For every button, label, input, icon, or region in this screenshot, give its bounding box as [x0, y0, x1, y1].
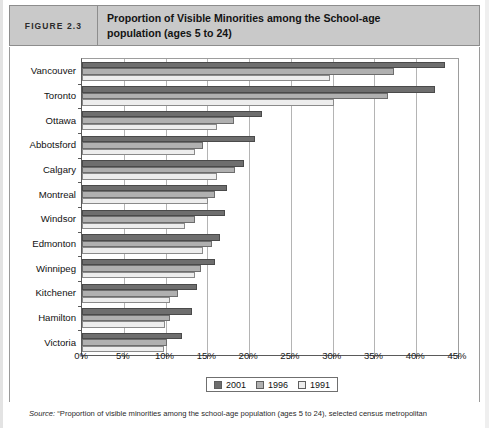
category-label: Calgary [43, 164, 76, 175]
source-prefix: Source: [29, 409, 55, 418]
page-right-edge [485, 0, 489, 428]
legend-swatch-1996 [256, 381, 264, 389]
x-axis-tick-label: 35% [364, 350, 383, 361]
legend-swatch-2001 [214, 381, 222, 389]
legend-item-2001: 2001 [214, 380, 246, 390]
gridline [374, 59, 375, 355]
bar-abbotsford-1991 [82, 149, 195, 155]
category-label: Windsor [41, 213, 76, 224]
bar-kitchener-1991 [82, 297, 170, 303]
chart-panel: VancouverTorontoOttawaAbbotsfordCalgaryM… [9, 47, 480, 402]
category-axis-labels: VancouverTorontoOttawaAbbotsfordCalgaryM… [10, 58, 76, 354]
x-axis-tick-label: 15% [197, 350, 216, 361]
category-label: Victoria [44, 336, 76, 347]
category-label: Montreal [39, 188, 76, 199]
category-label: Abbotsford [30, 139, 76, 150]
legend-label-1996: 1996 [268, 380, 288, 390]
y-axis-tick [78, 256, 82, 257]
legend-item-1996: 1996 [256, 380, 288, 390]
page-left-edge [0, 0, 3, 428]
x-axis-tick-label: 40% [406, 350, 425, 361]
legend-label-2001: 2001 [226, 380, 246, 390]
category-label: Toronto [44, 90, 76, 101]
gridline [416, 59, 417, 355]
y-axis-tick [78, 133, 82, 134]
figure-header: FIGURE 2.3 Proportion of Visible Minorit… [9, 5, 480, 46]
bar-edmonton-1991 [82, 247, 203, 253]
legend-item-1991: 1991 [298, 380, 330, 390]
source-note: Source: “Proportion of visible minoritie… [29, 409, 469, 419]
y-axis-tick [78, 306, 82, 307]
x-axis-tick-label: 20% [239, 350, 258, 361]
bar-vancouver-1991 [82, 75, 330, 81]
bar-calgary-1991 [82, 173, 217, 179]
y-axis-tick [78, 108, 82, 109]
y-axis-tick [78, 158, 82, 159]
bar-windsor-1991 [82, 223, 185, 229]
figure-title-line-1: Proportion of Visible Minorities among t… [107, 11, 473, 26]
category-label: Edmonton [32, 238, 76, 249]
category-label: Ottawa [46, 114, 76, 125]
plot-area [81, 58, 459, 356]
category-label: Vancouver [31, 65, 76, 76]
figure-title-cell: Proportion of Visible Minorities among t… [98, 6, 479, 45]
y-axis-tick [78, 84, 82, 85]
x-axis-tick-label: 25% [280, 350, 299, 361]
category-label: Hamilton [38, 312, 76, 323]
category-label: Winnipeg [36, 262, 76, 273]
legend-label-1991: 1991 [310, 380, 330, 390]
y-axis-tick [78, 182, 82, 183]
legend-swatch-1991 [298, 381, 306, 389]
x-axis-tick-label: 5% [116, 350, 130, 361]
figure-number-cell: FIGURE 2.3 [10, 6, 98, 45]
category-label: Kitchener [35, 287, 76, 298]
x-axis-tick-label: 10% [155, 350, 174, 361]
bar-winnipeg-1991 [82, 272, 195, 278]
y-axis-tick [78, 330, 82, 331]
source-text: “Proportion of visible minorities among … [55, 409, 427, 418]
x-axis-tick-label: 0% [74, 350, 88, 361]
bar-hamilton-1991 [82, 321, 165, 327]
bar-toronto-1991 [82, 99, 334, 105]
x-axis-tick-label: 30% [322, 350, 341, 361]
x-axis-tick-label: 45% [447, 350, 466, 361]
y-axis-tick [78, 281, 82, 282]
bar-montreal-1991 [82, 198, 208, 204]
y-axis-tick [78, 207, 82, 208]
chart-legend: 200119961991 [206, 377, 338, 392]
figure-title-line-2: population (ages 5 to 24) [107, 26, 473, 41]
y-axis-tick [78, 232, 82, 233]
bar-ottawa-1991 [82, 124, 217, 130]
figure-number-label: FIGURE 2.3 [25, 21, 82, 31]
